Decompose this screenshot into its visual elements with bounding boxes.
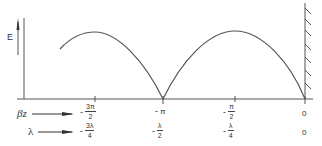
- lambda-tick-label-3: - λ4: [223, 122, 234, 139]
- beta-z-tick-label-2: - π: [155, 106, 166, 116]
- beta-z-row-arrow-icon: [32, 112, 74, 116]
- lambda-tick-label-1: - 3λ4: [80, 122, 94, 139]
- field-magnitude-curve: [60, 31, 305, 99]
- lambda-tick-label-4: 0: [302, 128, 306, 137]
- lambda-row-label: λ: [28, 126, 33, 137]
- beta-z-tick-label-3: - π2: [223, 103, 235, 120]
- y-axis-label: E: [7, 33, 13, 42]
- e-field-arrow-icon: [17, 18, 20, 55]
- lambda-row-arrow-icon: [38, 130, 74, 134]
- x-axis-ticks: [95, 96, 305, 104]
- conducting-wall-icon: [305, 3, 311, 99]
- beta-z-tick-label-1: - 3π2: [80, 103, 96, 120]
- beta-z-tick-label-4: 0: [302, 109, 306, 118]
- beta-z-row-label: βz: [17, 108, 27, 119]
- lambda-tick-label-2: - λ2: [152, 122, 163, 139]
